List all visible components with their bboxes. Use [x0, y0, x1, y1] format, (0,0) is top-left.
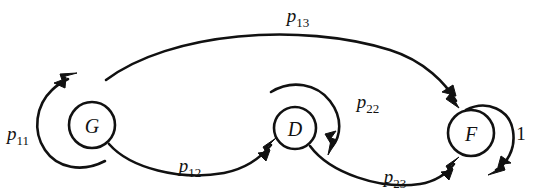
edge-label-p13-sub: 13	[296, 15, 309, 30]
node-D-label: D	[287, 118, 303, 140]
edge-label-p11-sub: 11	[16, 133, 29, 148]
edge-label-p12-base: p	[177, 155, 189, 176]
edge-p22-arrowhead	[325, 131, 337, 155]
edge-label-one: 1	[516, 123, 526, 144]
edge-p23-path	[310, 146, 454, 185]
edge-label-p11: p11	[5, 123, 29, 148]
edge-label-p23: p23	[382, 166, 407, 191]
edge-p13	[106, 35, 459, 108]
edge-label-p12-sub: 12	[188, 165, 201, 180]
node-G-label: G	[85, 115, 100, 137]
state-diagram-figure: G D F p11 p12 p13 p22 p23 1	[0, 0, 535, 192]
node-F[interactable]: F	[448, 110, 494, 156]
edge-label-p13-base: p	[285, 5, 297, 26]
edge-label-p22-sub: 22	[366, 101, 379, 116]
edge-label-p22: p22	[355, 91, 380, 116]
node-G[interactable]: G	[69, 102, 115, 148]
edge-label-p23-sub: 23	[393, 176, 406, 191]
edge-label-p23-base: p	[382, 166, 394, 187]
edge-p12-arrowhead	[258, 138, 276, 161]
state-diagram-canvas: G D F p11 p12 p13 p22 p23 1	[0, 0, 535, 192]
edge-label-p22-base: p	[355, 91, 367, 112]
node-F-label: F	[464, 123, 478, 145]
edge-p23-arrowhead	[441, 157, 459, 180]
edge-label-p13: p13	[285, 5, 310, 30]
edge-p13-arrowhead	[442, 85, 459, 108]
edge-label-p11-base: p	[5, 123, 17, 144]
edge-label-p12: p12	[177, 155, 202, 180]
edge-p13-path	[106, 35, 456, 101]
node-D[interactable]: D	[274, 107, 316, 149]
